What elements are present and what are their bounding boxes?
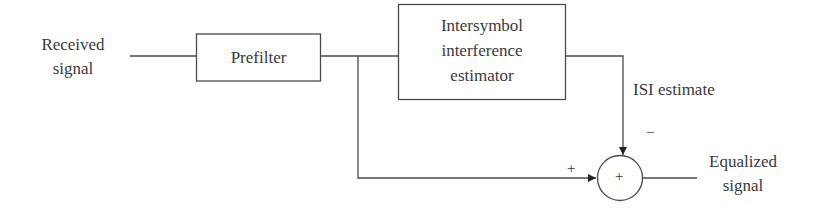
isi-estimator-label: Intersymbol interference estimator	[398, 13, 566, 88]
input-label-line1: Received	[28, 33, 118, 57]
output-label-line1: Equalized	[697, 150, 789, 174]
output-label-line2: signal	[697, 174, 789, 198]
plus-sign-input: +	[567, 160, 575, 177]
summer-symbol: +	[615, 168, 623, 185]
isi-estimator-line3: estimator	[398, 63, 566, 88]
prefilter-label: Prefilter	[196, 45, 321, 70]
isi-estimate-label: ISI estimate	[633, 78, 715, 102]
isi-estimator-line1: Intersymbol	[398, 13, 566, 38]
prefilter-text: Prefilter	[196, 45, 321, 70]
output-label: Equalized signal	[697, 150, 789, 198]
input-label-line2: signal	[28, 57, 118, 81]
isi-estimate-line	[566, 56, 623, 155]
minus-sign: −	[646, 124, 654, 141]
isi-estimator-line2: interference	[398, 38, 566, 63]
input-label: Received signal	[28, 33, 118, 81]
